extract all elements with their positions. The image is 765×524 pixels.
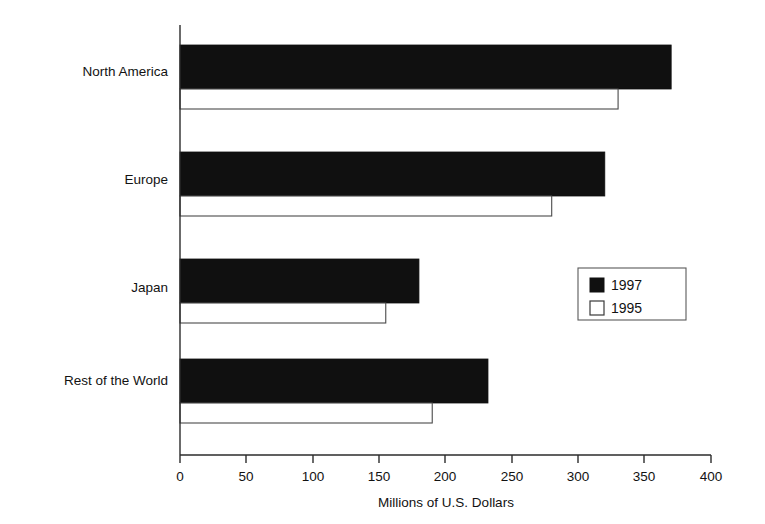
x-tick-label-150: 150: [368, 469, 391, 484]
bar-rest-of-world-1995: [180, 403, 432, 423]
chart-canvas: North America Europe Japan Rest of the W…: [0, 0, 765, 524]
x-axis-tick-marks: [180, 455, 711, 463]
x-tick-label-50: 50: [238, 469, 253, 484]
legend-label-1995: 1995: [611, 300, 642, 316]
bar-group-japan: [180, 259, 419, 323]
x-tick-label-300: 300: [567, 469, 590, 484]
x-tick-label-200: 200: [434, 469, 457, 484]
category-label-north-america: North America: [82, 64, 168, 79]
legend-swatch-1997-icon: [590, 278, 604, 292]
bar-north-america-1997: [180, 45, 671, 89]
bar-group-europe: [180, 152, 605, 216]
bar-group-rest-of-world: [180, 359, 488, 423]
chart-legend: 1997 1995: [578, 268, 686, 320]
category-label-japan: Japan: [131, 280, 168, 295]
bar-rest-of-world-1997: [180, 359, 488, 403]
x-tick-label-0: 0: [176, 469, 184, 484]
category-label-rest-of-world: Rest of the World: [64, 373, 168, 388]
bar-group-north-america: [180, 45, 671, 109]
legend-label-1997: 1997: [611, 277, 642, 293]
bar-europe-1997: [180, 152, 605, 196]
bar-chart-figure: North America Europe Japan Rest of the W…: [0, 0, 765, 524]
category-label-europe: Europe: [124, 172, 168, 187]
x-tick-label-350: 350: [633, 469, 656, 484]
bar-europe-1995: [180, 196, 552, 216]
bar-north-america-1995: [180, 89, 618, 109]
x-tick-label-250: 250: [501, 469, 524, 484]
x-tick-label-400: 400: [700, 469, 723, 484]
bar-japan-1995: [180, 303, 386, 323]
x-axis-title: Millions of U.S. Dollars: [378, 495, 514, 510]
x-tick-label-100: 100: [302, 469, 325, 484]
bar-japan-1997: [180, 259, 419, 303]
legend-swatch-1995-icon: [590, 301, 604, 315]
